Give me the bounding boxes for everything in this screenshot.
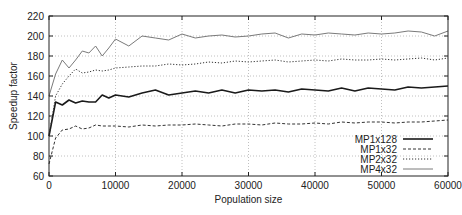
legend: MP1x128MP1x32MP2x32MP4x32 [355,134,433,175]
y-tick-label: 180 [27,51,44,62]
x-tick-label: 60000 [434,180,462,191]
y-tick-label: 140 [27,91,44,102]
x-tick-label: 0 [46,180,52,191]
y-tick-label: 60 [33,171,45,182]
line-chart: 0100002000030000400005000060000 60801001… [0,0,462,215]
x-tick-label: 50000 [368,180,396,191]
x-tick-label: 30000 [235,180,263,191]
x-tick-label: 40000 [301,180,329,191]
y-tick-label: 220 [27,11,44,22]
y-tick-label: 160 [27,71,44,82]
legend-label: MP4x32 [360,164,397,175]
x-tick-label: 10000 [102,180,130,191]
x-tick-labels: 0100002000030000400005000060000 [46,180,462,191]
y-tick-label: 120 [27,111,44,122]
y-axis-label: Speedup factor [8,61,19,129]
x-tick-label: 20000 [168,180,196,191]
y-tick-label: 100 [27,131,44,142]
y-tick-labels: 6080100120140160180200220 [27,11,44,182]
series-mp1x128 [49,86,448,136]
y-tick-label: 200 [27,31,44,42]
y-tick-label: 80 [33,151,45,162]
x-axis-label: Population size [215,194,283,205]
